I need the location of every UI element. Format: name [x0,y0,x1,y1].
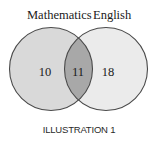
count-intersection: 11 [72,66,84,79]
count-english-only: 18 [102,66,115,79]
count-mathematics-only: 10 [39,66,52,79]
figure-caption: ILLUSTRATION 1 [0,125,158,135]
set-label-english: English [93,9,131,22]
venn-diagram: Mathematics English 10 11 18 ILLUSTRATIO… [0,0,158,142]
set-label-mathematics: Mathematics [27,9,92,22]
